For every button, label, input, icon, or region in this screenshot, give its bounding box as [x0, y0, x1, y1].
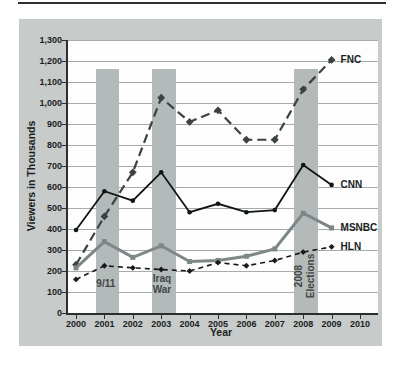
- y-tick-1000: [62, 103, 66, 104]
- y-tick-1100: [62, 82, 66, 83]
- y-tick-1200: [62, 61, 66, 62]
- y-tick-label-200: 200: [20, 266, 62, 277]
- y-tick-0: [62, 313, 66, 314]
- data-point-cnn-2009: [329, 183, 334, 188]
- annotation-2: 2008 Elections: [292, 254, 315, 298]
- data-point-cnn-2005: [216, 202, 221, 207]
- data-point-msnbc-2001: [102, 239, 107, 244]
- data-point-cnn-2003: [159, 170, 164, 175]
- x-tick-label-2010: 2010: [343, 319, 377, 330]
- y-tick-900: [62, 124, 66, 125]
- series-line-cnn: [76, 165, 332, 230]
- data-point-msnbc-2008: [301, 211, 306, 216]
- data-point-msnbc-2002: [130, 255, 135, 260]
- data-point-fnc-2004: [186, 118, 194, 126]
- y-tick-800: [62, 145, 66, 146]
- y-tick-label-1100: 1,100: [20, 77, 62, 88]
- x-axis-title: Year: [210, 326, 232, 338]
- series-label-msnbc: MSNBC: [341, 222, 378, 233]
- y-tick-700: [62, 166, 66, 167]
- data-point-msnbc-2009: [329, 225, 334, 230]
- y-tick-label-1000: 1,000: [20, 98, 62, 109]
- series-label-cnn: CNN: [341, 179, 363, 190]
- y-tick-600: [62, 187, 66, 188]
- y-tick-label-0: 0: [20, 308, 62, 319]
- series-label-hln: HLN: [341, 241, 362, 252]
- data-point-fnc-2006: [243, 136, 251, 144]
- data-point-cnn-2008: [301, 163, 306, 168]
- data-point-cnn-2007: [273, 208, 278, 213]
- y-tick-200: [62, 271, 66, 272]
- data-point-hln-2009: [329, 244, 335, 250]
- data-point-cnn-2002: [131, 198, 136, 203]
- y-tick-500: [62, 208, 66, 209]
- data-point-cnn-2006: [244, 210, 249, 215]
- y-axis-title: Viewers in Thousands: [25, 121, 37, 232]
- data-point-cnn-2004: [187, 210, 192, 215]
- y-tick-label-1200: 1,200: [20, 56, 62, 67]
- y-tick-300: [62, 250, 66, 251]
- data-point-msnbc-2004: [187, 259, 192, 264]
- y-tick-label-100: 100: [20, 287, 62, 298]
- data-point-cnn-2001: [102, 189, 107, 194]
- data-point-msnbc-2006: [244, 254, 249, 259]
- data-point-fnc-2003: [157, 94, 165, 102]
- data-point-msnbc-2007: [272, 246, 277, 251]
- annotation-1: Iraq War: [153, 272, 172, 295]
- data-point-hln-2002: [130, 265, 136, 271]
- y-tick-100: [62, 292, 66, 293]
- series-line-fnc: [76, 60, 332, 265]
- data-point-hln-2007: [272, 258, 278, 264]
- y-tick-label-300: 300: [20, 245, 62, 256]
- data-point-cnn-2000: [74, 228, 79, 233]
- data-point-hln-2000: [73, 276, 79, 282]
- y-tick-1300: [62, 40, 66, 41]
- y-tick-400: [62, 229, 66, 230]
- data-point-hln-2006: [243, 263, 249, 269]
- y-tick-label-1300: 1,300: [20, 35, 62, 46]
- data-point-msnbc-2003: [159, 243, 164, 248]
- data-point-msnbc-2000: [74, 265, 79, 270]
- data-point-hln-2001: [101, 263, 107, 269]
- annotation-0: 9/11: [96, 278, 115, 290]
- series-label-fnc: FNC: [341, 54, 362, 65]
- data-point-hln-2004: [187, 268, 193, 274]
